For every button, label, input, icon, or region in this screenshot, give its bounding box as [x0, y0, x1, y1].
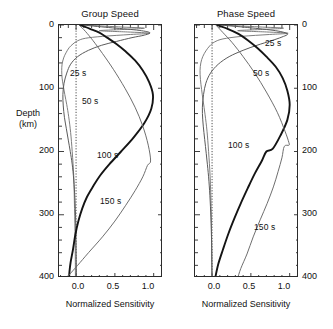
curve-phase-speed-50s	[202, 25, 287, 277]
x-axis-label-group: Normalized Sensitivity	[40, 299, 180, 309]
curve-label-phase-25s: 25 s	[265, 38, 281, 48]
y-tick-group-300: 300	[18, 208, 54, 218]
y-tick-phase-400: 400	[302, 271, 332, 281]
y-tick-phase-200: 200	[302, 145, 332, 155]
curve-label-phase-50s: 50 s	[253, 68, 269, 78]
x-tick-group-10: 1.0	[136, 281, 160, 291]
panel-title-phase-speed: Phase Speed	[194, 8, 298, 19]
curve-phase-speed-25s	[200, 25, 288, 277]
y-axis-title-line2: (km)	[19, 119, 37, 129]
y-axis-title: Depth (km)	[2, 108, 54, 130]
curve-label-group-25s: 25 s	[70, 68, 86, 78]
curve-label-group-100s: 100 s	[97, 150, 118, 160]
curves-phase-speed	[195, 25, 298, 277]
y-tick-phase-0: 0	[302, 19, 332, 29]
y-tick-phase-300: 300	[302, 208, 332, 218]
curve-label-group-50s: 50 s	[82, 96, 98, 106]
x-axis-label-phase: Normalized Sensitivity	[176, 299, 316, 309]
x-tick-phase-05: 0.5	[237, 281, 261, 291]
sensitivity-kernel-figure: Group Speed 0 100 200 300 400 0.0 0.5 1.…	[0, 0, 333, 329]
y-tick-phase-100: 100	[302, 82, 332, 92]
panel-title-group-speed: Group Speed	[58, 8, 162, 19]
y-axis-title-line1: Depth	[16, 108, 40, 118]
curve-label-group-150s: 150 s	[100, 196, 121, 206]
x-tick-group-05: 0.5	[101, 281, 125, 291]
x-tick-phase-0: 0.0	[202, 281, 226, 291]
x-tick-phase-10: 1.0	[272, 281, 296, 291]
plot-area-phase-speed	[194, 24, 298, 277]
curve-label-phase-150s: 150 s	[254, 222, 275, 232]
y-tick-group-400: 400	[18, 271, 54, 281]
y-tick-group-100: 100	[18, 82, 54, 92]
x-tick-group-0: 0.0	[66, 281, 90, 291]
y-tick-group-0: 0	[18, 19, 54, 29]
y-tick-group-200: 200	[18, 145, 54, 155]
curve-label-phase-100s: 100 s	[228, 140, 249, 150]
